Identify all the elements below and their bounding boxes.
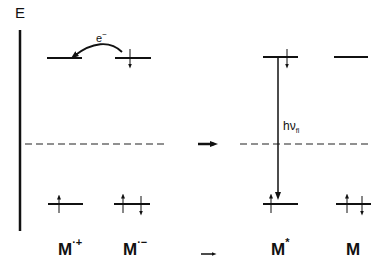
energy-level-diagram: E e− hνfl M·+ M·− M* M — [0, 0, 387, 278]
electron-transfer-label: e− — [96, 30, 107, 44]
energy-axis-label: E — [15, 4, 25, 21]
electron-transfer-arrow — [74, 44, 122, 56]
diagram-canvas — [0, 0, 387, 278]
species-label-excited: M* — [271, 238, 289, 260]
species-label-radical-anion: M·− — [123, 238, 147, 260]
species-label-ground: M — [346, 238, 360, 260]
species-label-radical-cation: M·+ — [58, 238, 82, 260]
fluorescence-label: hνfl — [283, 119, 299, 134]
